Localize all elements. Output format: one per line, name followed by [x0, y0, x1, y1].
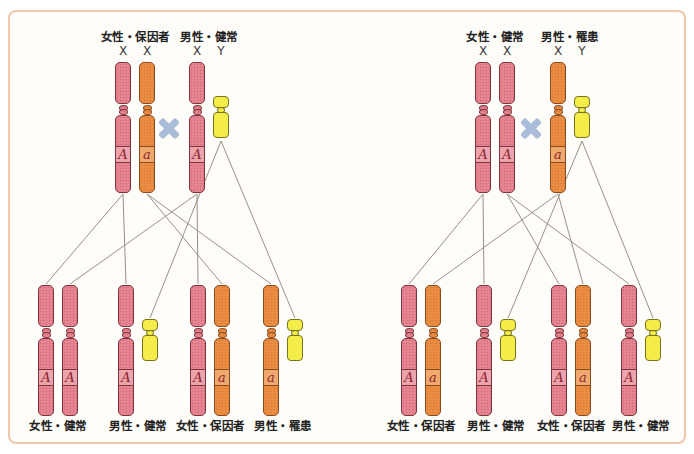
- x-chromosome: A: [62, 285, 78, 416]
- chromosome-short-arm: [499, 62, 515, 104]
- x-chromosome: a: [575, 285, 591, 416]
- chromosome-long-arm: a: [139, 115, 155, 193]
- chromosome-long-arm: a: [550, 115, 566, 193]
- chromosome-long-arm: a: [214, 338, 230, 416]
- offspring-chromosomes: A: [621, 285, 661, 416]
- father-chromosomes: A: [189, 62, 229, 193]
- allele-label: A: [479, 371, 488, 384]
- centromere: [579, 327, 588, 338]
- chromosome-long-arm: a: [425, 338, 441, 416]
- chromosome-long-arm: A: [189, 115, 205, 193]
- x-chromosome: A: [499, 62, 515, 193]
- chromosome-short-arm: [263, 285, 279, 327]
- chromosome-short-arm: [550, 62, 566, 104]
- chromosome-short-arm: [575, 285, 591, 327]
- sex-label-x: X: [475, 44, 491, 58]
- x-chromosome: a: [425, 285, 441, 416]
- offspring-chromosomes: Aa: [190, 285, 230, 416]
- allele-label: A: [193, 371, 202, 384]
- chromosome-short-arm: [62, 285, 78, 327]
- offspring-chromosomes: Aa: [551, 285, 591, 416]
- chromosome-long-arm: A: [499, 115, 515, 193]
- chromosome-short-arm: [189, 62, 205, 104]
- chromosome-short-arm: [425, 285, 441, 327]
- chromosome-long-arm: A: [551, 338, 567, 416]
- chromosome-long-arm: A: [621, 338, 637, 416]
- allele-band: A: [552, 369, 566, 386]
- y-chromosome: [574, 96, 590, 138]
- x-chromosome: a: [263, 285, 279, 416]
- chromosome-long-arm: A: [190, 338, 206, 416]
- centromere: [122, 327, 131, 338]
- mother-chromosomes: AA: [475, 62, 515, 193]
- x-chromosome: A: [38, 285, 54, 416]
- allele-label: a: [218, 371, 226, 384]
- centromere: [267, 327, 276, 338]
- offspring-label: 女性・健常: [29, 417, 87, 433]
- chromosome-long-arm: A: [475, 115, 491, 193]
- centromere: [193, 104, 202, 115]
- allele-label: A: [118, 148, 127, 161]
- centromere: [405, 327, 414, 338]
- offspring-label: 男性・健常: [109, 417, 167, 433]
- allele-label: A: [624, 371, 633, 384]
- allele-label: A: [478, 148, 487, 161]
- allele-band: A: [476, 146, 490, 163]
- father-title: 男性・罹患: [541, 28, 599, 44]
- centromere: [429, 327, 438, 338]
- chromosome-long-arm: a: [263, 338, 279, 416]
- allele-band: A: [116, 146, 130, 163]
- sex-label-x: X: [139, 44, 155, 58]
- allele-label: a: [579, 371, 587, 384]
- mother-title: 女性・健常: [466, 28, 524, 44]
- y-chromosome: [213, 96, 229, 138]
- allele-band: a: [140, 146, 154, 163]
- allele-label: A: [121, 371, 130, 384]
- centromere: [143, 104, 152, 115]
- sex-label-y: Y: [213, 44, 229, 58]
- x-chromosome: A: [476, 285, 492, 416]
- centromere: [503, 104, 512, 115]
- allele-label: A: [502, 148, 511, 161]
- offspring-label: 女性・保因者: [176, 417, 245, 433]
- allele-label: a: [429, 371, 437, 384]
- centromere: [554, 104, 563, 115]
- allele-band: A: [402, 369, 416, 386]
- y-chromosome: [287, 319, 303, 361]
- x-chromosome: A: [621, 285, 637, 416]
- x-chromosome: A: [190, 285, 206, 416]
- x-chromosome: A: [401, 285, 417, 416]
- mother-title: 女性・保因者: [101, 28, 170, 44]
- offspring-label: 男性・健常: [467, 417, 525, 433]
- chromosome-short-arm: [214, 285, 230, 327]
- centromere: [42, 327, 51, 338]
- allele-band: A: [477, 369, 491, 386]
- allele-band: a: [215, 369, 229, 386]
- centromere: [555, 327, 564, 338]
- y-chromosome: [142, 319, 158, 361]
- chromosome-long-arm: A: [38, 338, 54, 416]
- allele-band: A: [500, 146, 514, 163]
- chromosome-short-arm: [190, 285, 206, 327]
- allele-label: A: [192, 148, 201, 161]
- allele-label: A: [404, 371, 413, 384]
- allele-label: A: [554, 371, 563, 384]
- sex-label-y: Y: [574, 44, 590, 58]
- chromosome-long-arm: A: [118, 338, 134, 416]
- offspring-chromosomes: A: [118, 285, 158, 416]
- centromere: [194, 327, 203, 338]
- allele-label: a: [143, 148, 151, 161]
- allele-label: A: [65, 371, 74, 384]
- sex-label-x: X: [499, 44, 515, 58]
- offspring-label: 女性・保因者: [537, 417, 606, 433]
- cross-icon: [158, 117, 180, 139]
- father-title: 男性・健常: [180, 28, 238, 44]
- offspring-chromosomes: A: [476, 285, 516, 416]
- chromosome-short-arm: [401, 285, 417, 327]
- x-chromosome: A: [475, 62, 491, 193]
- chromosome-long-arm: A: [401, 338, 417, 416]
- sex-label-x: X: [550, 44, 566, 58]
- centromere: [480, 327, 489, 338]
- sex-label-x: X: [189, 44, 205, 58]
- centromere: [218, 327, 227, 338]
